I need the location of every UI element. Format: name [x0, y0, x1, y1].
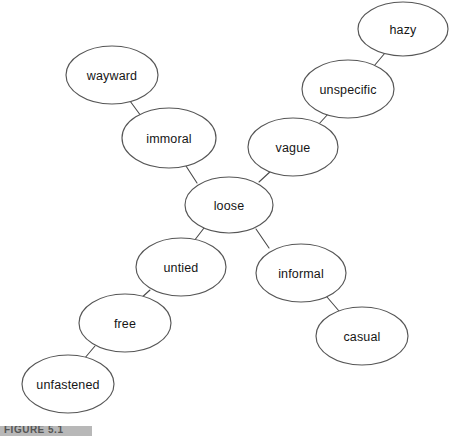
node-label-hazy: hazy — [389, 23, 417, 37]
node-label-untied: untied — [164, 261, 199, 275]
node-label-unfastened: unfastened — [36, 378, 99, 392]
edge-loose-to-immoral — [186, 166, 197, 183]
node-label-informal: informal — [278, 267, 324, 281]
node-untied[interactable]: untied — [136, 238, 226, 296]
node-informal[interactable]: informal — [256, 244, 346, 302]
network-canvas: looseimmoralwaywardvagueunspecifichazyun… — [0, 0, 457, 436]
node-casual[interactable]: casual — [316, 307, 408, 365]
node-label-free: free — [114, 317, 136, 331]
figure-caption-text: FIGURE 5.1 — [4, 426, 63, 435]
edge-loose-to-informal — [256, 229, 269, 248]
node-unfastened[interactable]: unfastened — [22, 355, 114, 413]
figure-caption-bar: FIGURE 5.1 — [0, 426, 92, 436]
node-immoral[interactable]: immoral — [122, 108, 216, 168]
semantic-network-diagram: looseimmoralwaywardvagueunspecifichazyun… — [0, 0, 457, 436]
node-label-immoral: immoral — [146, 132, 192, 146]
nodes-group: looseimmoralwaywardvagueunspecifichazyun… — [22, 2, 448, 413]
node-free[interactable]: free — [79, 294, 171, 352]
node-label-wayward: wayward — [86, 69, 137, 83]
edge-unspecific-to-hazy — [374, 53, 385, 66]
node-label-casual: casual — [343, 330, 380, 344]
node-wayward[interactable]: wayward — [66, 46, 158, 104]
node-label-vague: vague — [276, 141, 311, 155]
node-loose[interactable]: loose — [185, 177, 273, 233]
node-label-loose: loose — [214, 199, 245, 213]
edge-immoral-to-wayward — [130, 101, 141, 116]
node-vague[interactable]: vague — [248, 118, 338, 176]
node-label-unspecific: unspecific — [319, 83, 376, 97]
node-hazy[interactable]: hazy — [358, 2, 448, 56]
edge-informal-to-casual — [327, 297, 339, 311]
node-unspecific[interactable]: unspecific — [302, 60, 394, 118]
